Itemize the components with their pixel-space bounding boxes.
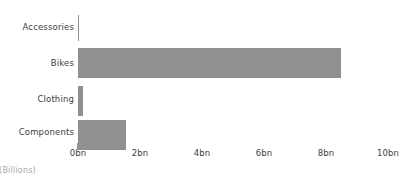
x-tick-label-1: 2bn [132,148,149,158]
category-label-clothing: Clothing [37,94,74,104]
x-tick-label-4: 8bn [318,148,335,158]
plot-area [77,12,397,142]
category-label-bikes: Bikes [51,58,74,68]
bar-components[interactable] [77,120,126,150]
x-tick-label-2: 4bn [194,148,211,158]
value-axis-baseline [77,12,78,143]
bar-bikes[interactable] [77,48,341,78]
x-tick-label-5: 10bn [377,148,399,158]
x-axis-title: (Billions) [0,166,415,175]
category-label-components: Components [19,127,74,137]
x-axis-title-text: (Billions) [0,166,36,175]
category-label-accessories: Accessories [23,22,74,32]
x-tick-label-3: 6bn [256,148,273,158]
bar-chart: Accessories Bikes Clothing Components 0b… [0,0,415,189]
x-tick-label-0: 0bn [70,148,87,158]
